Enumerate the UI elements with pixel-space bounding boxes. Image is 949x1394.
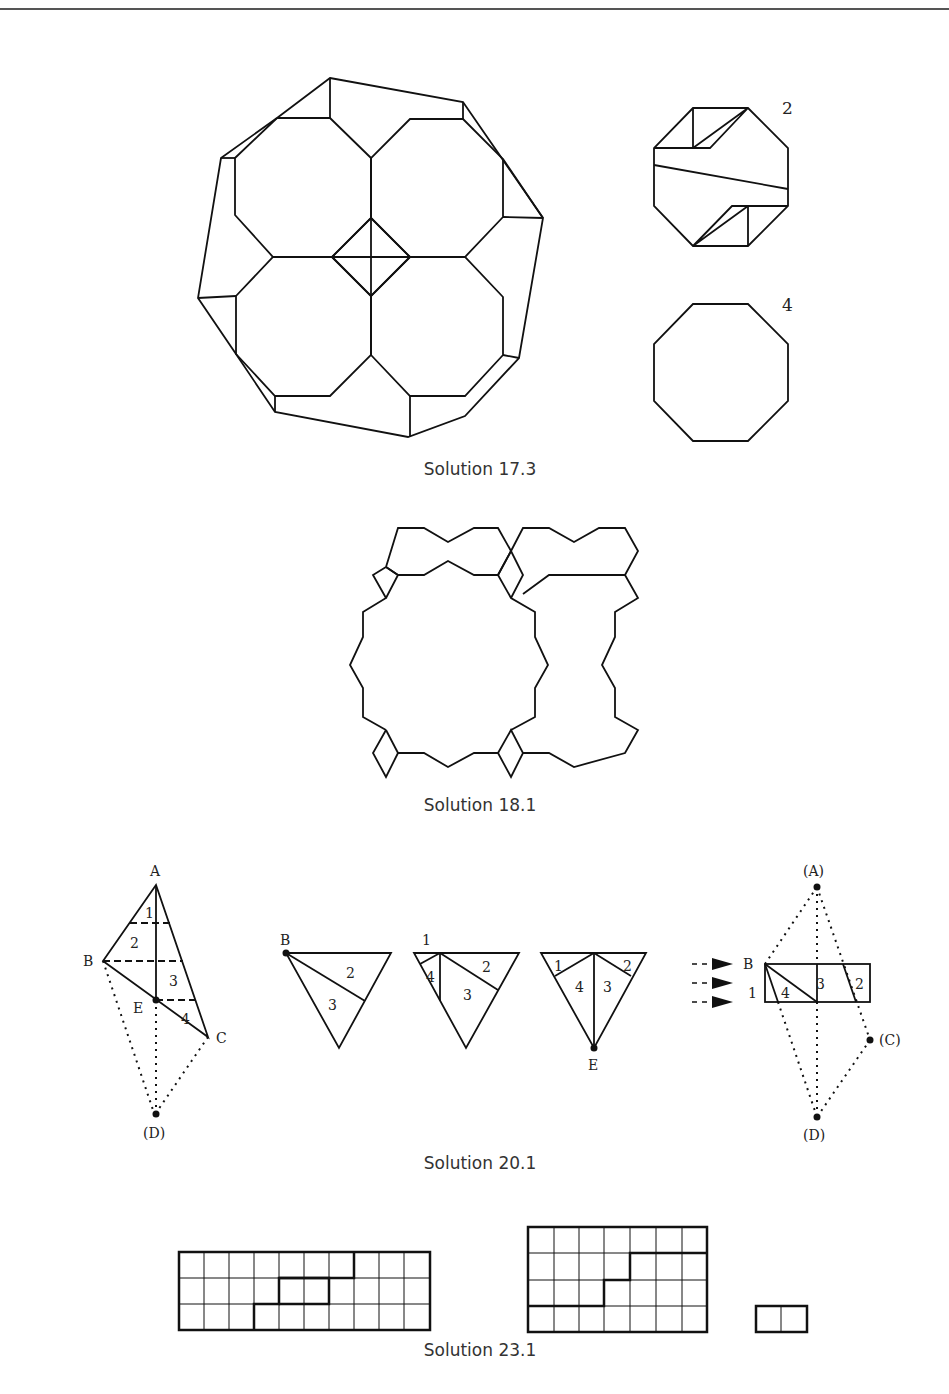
figure-20-1-step-b <box>286 953 391 1048</box>
piece-2-label: 2 <box>130 935 139 951</box>
vertex-c-label: C <box>216 1030 227 1046</box>
figure-23-1-grids <box>179 1227 807 1332</box>
octagon-2-label: 2 <box>782 98 793 118</box>
step3-piece-2: 2 <box>482 959 491 975</box>
caption-20-1: Solution 20.1 <box>380 1153 580 1173</box>
piece-3-label: 3 <box>169 973 178 989</box>
figure-17-3-octagon-4 <box>654 304 788 441</box>
arrow-icon <box>712 977 733 989</box>
proj-d-label: (D) <box>803 1127 825 1143</box>
figure-17-3-octagon-2 <box>654 108 788 246</box>
step2-piece-3: 3 <box>328 997 337 1013</box>
step3-piece-3: 3 <box>463 987 472 1003</box>
step3-1-label: 1 <box>422 932 431 948</box>
point-d-proj-dot <box>814 1114 821 1121</box>
rect-piece-3: 3 <box>816 976 825 992</box>
point-d-dot <box>153 1111 160 1118</box>
figure-17-3-dissection <box>198 78 543 437</box>
step4-piece-3: 3 <box>603 979 612 995</box>
vertex-d-label: (D) <box>143 1125 165 1141</box>
step3-piece-4: 4 <box>426 969 435 985</box>
caption-23-1: Solution 23.1 <box>380 1340 580 1360</box>
proj-b-label: B <box>743 956 753 972</box>
step2-b-label: B <box>280 932 290 948</box>
piece-4-label: 4 <box>181 1011 190 1027</box>
point-c-proj-dot <box>867 1037 874 1044</box>
step4-e-label: E <box>588 1057 598 1073</box>
step4-piece-1: 1 <box>554 958 563 974</box>
vertex-a-label: A <box>149 863 161 879</box>
figures-canvas: 2 4 A B C E (D) 1 2 3 4 B 2 3 1 4 2 3 E … <box>0 0 949 1394</box>
proj-c-label: (C) <box>879 1032 901 1048</box>
caption-18-1: Solution 18.1 <box>380 795 580 815</box>
figure-18-1-dissection <box>350 528 638 777</box>
vertex-e-label: E <box>133 1000 143 1016</box>
point-e-dot <box>153 997 160 1004</box>
step4-piece-4: 4 <box>575 979 584 995</box>
rect-piece-4: 4 <box>781 985 790 1001</box>
rect-piece-2: 2 <box>855 976 864 992</box>
piece-1-label: 1 <box>145 905 154 921</box>
caption-17-3: Solution 17.3 <box>380 459 580 479</box>
vertex-b-label: B <box>83 953 93 969</box>
arrow-icon <box>712 958 733 970</box>
octagon-4-label: 4 <box>782 295 793 315</box>
point-e2-dot <box>591 1045 598 1052</box>
point-a-proj-dot <box>814 884 821 891</box>
step2-piece-2: 2 <box>346 965 355 981</box>
arrow-icon <box>712 996 733 1008</box>
proj-a-label: (A) <box>803 863 824 879</box>
step4-piece-2: 2 <box>623 958 632 974</box>
point-b-dot <box>283 950 290 957</box>
rect-piece-1: 1 <box>748 985 757 1001</box>
